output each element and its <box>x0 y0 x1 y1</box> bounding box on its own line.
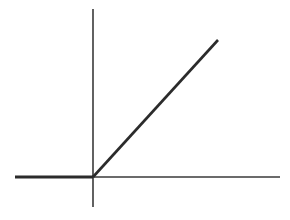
relu-plot-canvas <box>0 0 290 220</box>
plot-background <box>0 0 290 220</box>
relu-plot-figure <box>0 0 290 220</box>
